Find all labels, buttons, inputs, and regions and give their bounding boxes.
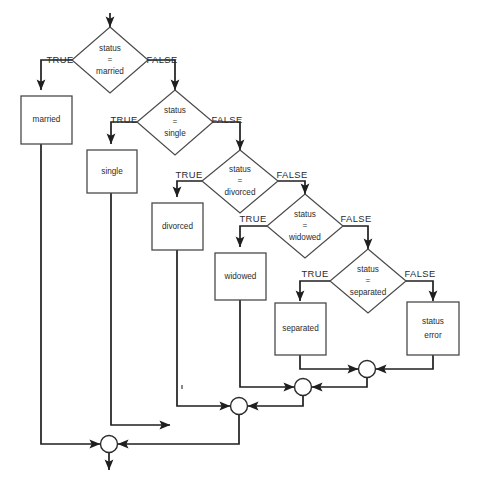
decision-d1-line1: status <box>99 44 121 53</box>
decision-status-separated[interactable]: status = separated <box>330 249 406 313</box>
decision-d5-line1: status <box>357 265 379 274</box>
process-separated[interactable]: separated <box>275 303 326 355</box>
decision-d2-line2: = <box>173 117 178 126</box>
process-single[interactable]: single <box>87 150 137 193</box>
process-married[interactable]: married <box>21 96 72 144</box>
edge-merge-3-to-merge-4 <box>118 414 239 444</box>
flowchart-canvas: status = married status = single status … <box>0 0 481 493</box>
decision-d3-line3: divorced <box>225 188 256 197</box>
process-status-error[interactable]: status error <box>407 302 459 355</box>
decision-status-widowed[interactable]: status = widowed <box>267 194 343 258</box>
label-d1-false: FALSE <box>146 54 177 65</box>
edge-d5-true-to-separated <box>300 281 330 301</box>
label-d5-false: FALSE <box>404 268 435 279</box>
edge-d4-false-to-d5 <box>343 226 368 249</box>
decision-status-married[interactable]: status = married <box>72 27 148 93</box>
decision-d1-line2: = <box>108 55 113 64</box>
decision-d3-line2: = <box>238 176 243 185</box>
process-single-label: single <box>101 167 123 176</box>
edge-d3-false-to-d4 <box>278 181 305 194</box>
process-divorced-label: divorced <box>162 222 193 231</box>
edge-d4-true-to-widowed <box>240 226 267 247</box>
label-d3-true: TRUE <box>175 169 202 180</box>
scan-speck <box>181 385 183 389</box>
label-d2-true: TRUE <box>110 114 137 125</box>
merge-node-3[interactable] <box>231 398 248 415</box>
decision-d4-line1: status <box>294 210 316 219</box>
edge-d5-false-to-status-error <box>406 281 433 301</box>
merge-node-4[interactable] <box>101 436 118 453</box>
process-separated-label: separated <box>282 324 319 333</box>
process-married-label: married <box>33 115 61 124</box>
edge-merge-1-to-merge-2 <box>312 377 367 387</box>
label-d4-false: FALSE <box>340 213 371 224</box>
decision-d4-line2: = <box>303 221 308 230</box>
edge-merge-2-to-merge-3 <box>248 395 303 406</box>
edge-d3-true-to-divorced <box>177 181 202 197</box>
edge-status-error-to-merge-1 <box>376 355 433 369</box>
decision-d5-line2: = <box>366 276 371 285</box>
process-status-error-line1: status <box>422 317 444 326</box>
decision-d2-line1: status <box>164 106 186 115</box>
decision-status-single[interactable]: status = single <box>137 90 213 155</box>
edge-d2-false-to-d3 <box>213 122 240 150</box>
decision-d2-line3: single <box>164 129 186 138</box>
process-widowed[interactable]: widowed <box>215 253 266 300</box>
decision-d4-line3: widowed <box>288 233 321 242</box>
label-d5-true: TRUE <box>301 268 328 279</box>
label-d4-true: TRUE <box>239 213 266 224</box>
label-d2-false: FALSE <box>211 114 242 125</box>
decision-d5-line3: separated <box>350 288 387 297</box>
edge-separated-to-merge-1 <box>300 355 358 369</box>
process-widowed-label: widowed <box>224 272 257 281</box>
decision-d3-line1: status <box>229 165 251 174</box>
decision-d1-line3: married <box>96 67 124 76</box>
label-d3-false: FALSE <box>276 169 307 180</box>
merge-node-2[interactable] <box>295 379 312 396</box>
process-status-error-line2: error <box>424 331 442 340</box>
merge-node-1[interactable] <box>359 361 376 378</box>
decision-status-divorced[interactable]: status = divorced <box>202 150 278 213</box>
flowchart-svg: status = married status = single status … <box>0 0 481 493</box>
process-divorced[interactable]: divorced <box>152 203 203 250</box>
label-d1-true: TRUE <box>46 54 73 65</box>
